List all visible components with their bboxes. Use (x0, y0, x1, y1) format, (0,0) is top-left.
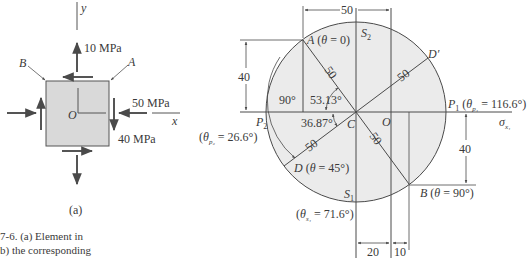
point-a-label: A (127, 55, 136, 69)
p2-angle-label: (θp₂ = 26.6°) (199, 130, 257, 146)
sigma-y-label: 10 MPa (84, 41, 122, 55)
caption-line-2: b) the corresponding (0, 244, 91, 256)
leader-a (111, 65, 128, 80)
sigma-x-label: 50 MPa (132, 96, 170, 110)
panel-a-label: (a) (69, 203, 82, 217)
origin-o-label: O (382, 115, 391, 129)
leader-b (28, 66, 45, 80)
stress-element-panel: y O x 10 MPa 50 MPa 40 MPa B A (a) (7, 1, 180, 217)
s1-angle-label: (θs₁ = 71.6°) (296, 207, 354, 223)
dim-right-label: 40 (459, 142, 471, 156)
point-p2-label: P2 (255, 115, 267, 131)
point-a-label: AA (θ = 0) (θ = 0) (306, 33, 350, 47)
mohr-circle-panel: 50 40 40 20 10 AA (θ = 0) (θ = 0) S2 D′ … (199, 3, 526, 259)
y-axis-label: y (80, 1, 87, 15)
angle-90-label: 90° (279, 93, 296, 107)
center-c-label: C (347, 117, 356, 131)
dim-top-label: 50 (341, 3, 353, 17)
dim-left-label: 40 (238, 70, 250, 84)
point-d-prime-label: D′ (427, 47, 440, 61)
shear-label: 40 MPa (118, 132, 156, 146)
dim-bottom-10-label: 10 (394, 245, 406, 259)
point-b-label: B (θ = 90°) (420, 186, 474, 200)
dim-bottom-20-label: 20 (367, 245, 379, 259)
point-b-label: B (19, 56, 27, 70)
angle-53-label: 53.13° (310, 93, 342, 107)
angle-37-label: 36.87° (301, 116, 333, 130)
figure-canvas: y O x 10 MPa 50 MPa 40 MPa B A (a) (0, 0, 531, 260)
caption-line-1: 7-6. (a) Element in (0, 230, 83, 242)
point-d-label: D (θ = 45°) (293, 161, 349, 175)
x-axis-label: x (171, 114, 178, 128)
origin-label: O (68, 108, 77, 122)
point-p1-label: P1(θp₁ = 116.6°) (447, 97, 526, 113)
sigma-axis-label: σx₁ (499, 115, 510, 131)
